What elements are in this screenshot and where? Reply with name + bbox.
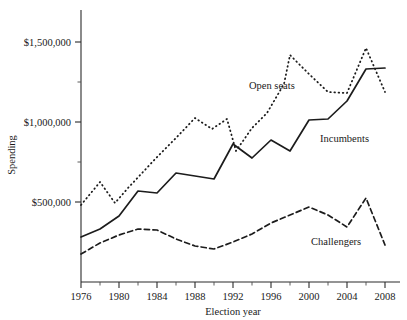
spending-by-candidate-type-chart: $1,500,000 $1,000,000 $500,000 1976 1980… xyxy=(0,0,407,320)
y-axis-major-ticks xyxy=(75,42,81,202)
x-tick-label-1988: 1988 xyxy=(185,291,206,302)
series-line-open-seats xyxy=(81,48,385,205)
y-tick-label-500000: $500,000 xyxy=(32,197,71,208)
chart-canvas: $1,500,000 $1,000,000 $500,000 1976 1980… xyxy=(0,0,407,320)
x-tick-label-1984: 1984 xyxy=(147,291,169,302)
x-tick-label-2000: 2000 xyxy=(299,291,320,302)
x-axis-major-ticks xyxy=(81,282,385,288)
x-tick-label-1996: 1996 xyxy=(261,291,282,302)
x-tick-label-1992: 1992 xyxy=(223,291,244,302)
series-label-incumbents: Incumbents xyxy=(320,133,369,144)
series-label-open-seats: Open seats xyxy=(249,80,295,91)
x-tick-label-2008: 2008 xyxy=(375,291,396,302)
x-axis-title: Election year xyxy=(205,306,261,317)
series-label-challengers: Challengers xyxy=(311,236,361,247)
x-tick-label-1980: 1980 xyxy=(109,291,130,302)
y-axis-title: Spending xyxy=(6,134,17,174)
y-tick-label-1500000: $1,500,000 xyxy=(24,37,71,48)
x-tick-label-1976: 1976 xyxy=(71,291,92,302)
x-tick-label-2004: 2004 xyxy=(337,291,359,302)
y-tick-label-1000000: $1,000,000 xyxy=(24,117,71,128)
